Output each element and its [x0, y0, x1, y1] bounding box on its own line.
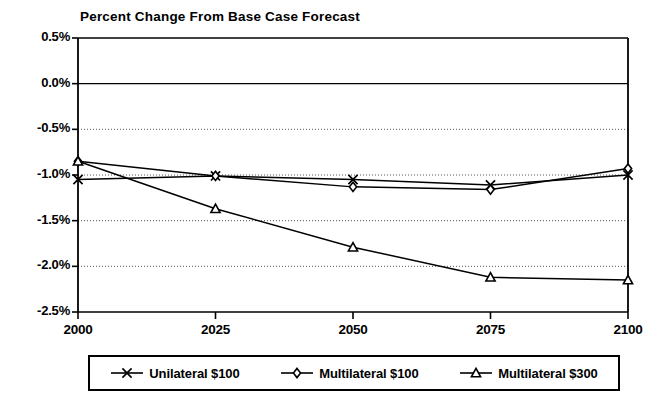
legend-item-label: Multilateral $300 [498, 366, 597, 381]
x-cross-marker-icon [110, 365, 144, 381]
axis-ticks-group [72, 38, 628, 319]
x-axis-tick-label: 2025 [176, 322, 256, 337]
diamond-marker-icon [280, 365, 314, 381]
plot-area [0, 0, 666, 409]
chart-figure: Percent Change From Base Case Forecast 0… [0, 0, 666, 409]
y-axis-tick-label: -2.0% [8, 257, 70, 272]
y-axis-tick-label: -0.5% [8, 120, 70, 135]
legend-item: Unilateral $100 [110, 365, 239, 381]
diamond-marker-icon [294, 368, 301, 377]
y-axis-tick-label: -2.5% [8, 303, 70, 318]
y-axis-tick-label: 0.0% [8, 75, 70, 90]
diamond-marker-icon [349, 182, 356, 191]
y-axis-tick-label: -1.0% [8, 166, 70, 181]
series-2 [73, 157, 632, 284]
legend-item-label: Unilateral $100 [149, 366, 239, 381]
legend-item: Multilateral $100 [280, 365, 418, 381]
axes-group [78, 38, 628, 312]
y-axis-tick-label: -1.5% [8, 212, 70, 227]
y-axis-tick-label: 0.5% [8, 29, 70, 44]
x-axis-tick-label: 2000 [38, 322, 118, 337]
triangle-marker-icon [459, 365, 493, 381]
chart-legend: Unilateral $100Multilateral $100Multilat… [88, 355, 620, 391]
x-axis-tick-label: 2100 [588, 322, 666, 337]
legend-item-label: Multilateral $100 [319, 366, 418, 381]
gridlines-group [78, 84, 628, 267]
data-series-group [73, 157, 632, 284]
x-axis-tick-label: 2075 [451, 322, 531, 337]
x-axis-tick-label: 2050 [313, 322, 393, 337]
legend-item: Multilateral $300 [459, 365, 597, 381]
